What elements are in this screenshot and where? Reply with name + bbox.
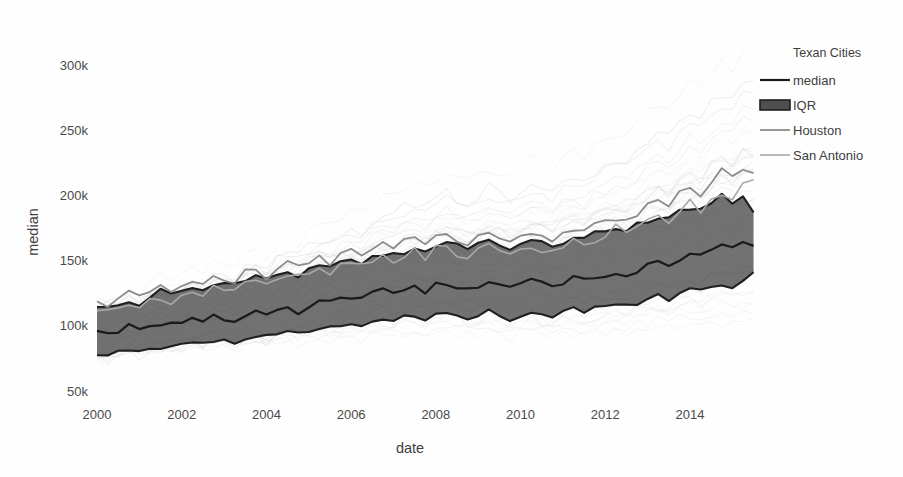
x-tick-label: 2004 <box>252 407 281 422</box>
y-tick-label: 100k <box>60 318 89 333</box>
x-axis-title: date <box>396 440 424 456</box>
legend-label-san-antonio: San Antonio <box>793 148 863 163</box>
x-tick-label: 2012 <box>591 407 620 422</box>
y-tick-label: 250k <box>60 123 89 138</box>
y-tick-label: 300k <box>60 58 89 73</box>
x-tick-label: 2000 <box>83 407 112 422</box>
y-tick-label: 200k <box>60 188 89 203</box>
y-tick-label: 150k <box>60 253 89 268</box>
legend-label-iqr: IQR <box>793 98 816 113</box>
y-tick-label: 50k <box>67 384 88 399</box>
legend-label-houston: Houston <box>793 123 841 138</box>
x-tick-label: 2006 <box>337 407 366 422</box>
legend-key-iqr <box>760 100 790 110</box>
x-tick-label: 2008 <box>421 407 450 422</box>
chart-canvas: 50k100k150k200k250k300k 2000200220042006… <box>0 0 903 477</box>
legend-title: Texan Cities <box>793 46 861 60</box>
x-tick-label: 2002 <box>167 407 196 422</box>
legend-label-median: median <box>793 73 836 88</box>
x-tick-label: 2014 <box>676 407 705 422</box>
y-axis-title: median <box>25 208 41 256</box>
x-tick-label: 2010 <box>506 407 535 422</box>
chart-figure: 50k100k150k200k250k300k 2000200220042006… <box>0 0 903 477</box>
